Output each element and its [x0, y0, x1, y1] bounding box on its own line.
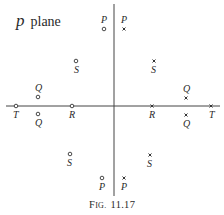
svg-text:P: P	[98, 181, 105, 192]
circle-point-s-upper	[74, 59, 78, 63]
left-circle-points: P S Q T R Q S P	[13, 14, 107, 192]
svg-text:P: P	[100, 14, 107, 25]
svg-text:T: T	[209, 109, 216, 120]
cross-point-p-lower	[123, 177, 126, 180]
circle-point-p-upper	[102, 27, 106, 31]
svg-text:S: S	[74, 64, 79, 75]
svg-text:R: R	[68, 109, 75, 120]
svg-text:R: R	[148, 109, 155, 120]
svg-text:T: T	[13, 109, 20, 120]
circle-point-q-upper	[36, 95, 40, 99]
figure-caption: FIG.11.17	[89, 199, 135, 210]
svg-text:S: S	[151, 64, 156, 75]
plane-title: pplane	[15, 11, 61, 30]
circle-point-p-lower	[100, 176, 104, 180]
svg-text:P: P	[120, 181, 127, 192]
circle-point-s-lower	[68, 152, 72, 156]
right-cross-points	[123, 28, 213, 180]
svg-text:Q: Q	[35, 82, 43, 93]
svg-text:P: P	[120, 14, 127, 25]
circle-point-t	[14, 104, 18, 108]
svg-text:S: S	[147, 158, 152, 169]
circle-point-r	[70, 104, 74, 108]
svg-text:S: S	[67, 157, 72, 168]
svg-text:Q: Q	[183, 83, 191, 94]
cross-point-p-upper	[123, 28, 126, 31]
cross-point-q-lower	[185, 114, 188, 117]
cross-point-q-upper	[185, 97, 188, 100]
svg-text:Q: Q	[35, 117, 43, 128]
p-plane-diagram: pplane P S Q T R Q S P	[0, 0, 224, 215]
cross-point-s-upper	[153, 60, 156, 63]
cross-point-s-lower	[149, 154, 152, 157]
svg-text:Q: Q	[183, 118, 191, 129]
circle-point-q-lower	[36, 112, 40, 116]
